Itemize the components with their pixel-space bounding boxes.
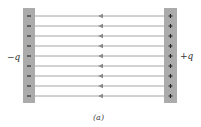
arrow-left-icon [98, 74, 103, 78]
negative-charge-label: −q [7, 52, 21, 62]
arrow-left-icon [98, 54, 103, 58]
arrow-left-icon [98, 84, 103, 88]
arrow-left-icon [98, 44, 103, 48]
arrow-left-icon [98, 24, 103, 28]
arrow-left-icon [98, 14, 103, 18]
arrow-left-icon [98, 34, 103, 38]
arrow-left-icon [98, 64, 103, 68]
arrowheads [98, 14, 103, 98]
arrow-left-icon [98, 94, 103, 98]
parallel-plate-field-diagram: −q +q (a) [0, 0, 201, 127]
figure-caption: (a) [93, 113, 104, 122]
positive-charge-label: +q [180, 51, 194, 61]
